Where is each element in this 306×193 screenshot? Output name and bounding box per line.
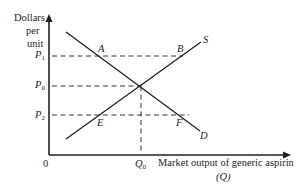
- y-axis-label-line-1: Dollars: [14, 13, 45, 24]
- point-a-label: A: [98, 44, 104, 55]
- point-b-label: B: [177, 44, 183, 55]
- y-axis-label-line-2: per: [26, 26, 39, 37]
- demand-curve-label: D: [200, 131, 208, 142]
- x-axis-sublabel: (Q): [216, 172, 231, 183]
- p0-label: P0: [35, 80, 45, 92]
- q0-label: Q0: [135, 159, 146, 171]
- p1-label: P1: [35, 50, 45, 62]
- origin-label: 0: [43, 159, 48, 170]
- y-axis-label-line-3: unit: [27, 39, 43, 50]
- y-axis-arrow-icon: [46, 14, 53, 22]
- supply-curve-label: S: [203, 35, 208, 46]
- point-f-label: F: [176, 118, 182, 129]
- point-e-label: E: [97, 118, 103, 129]
- p2-label: P2: [35, 110, 45, 122]
- x-axis-label: Market output of generic aspirin: [158, 158, 294, 169]
